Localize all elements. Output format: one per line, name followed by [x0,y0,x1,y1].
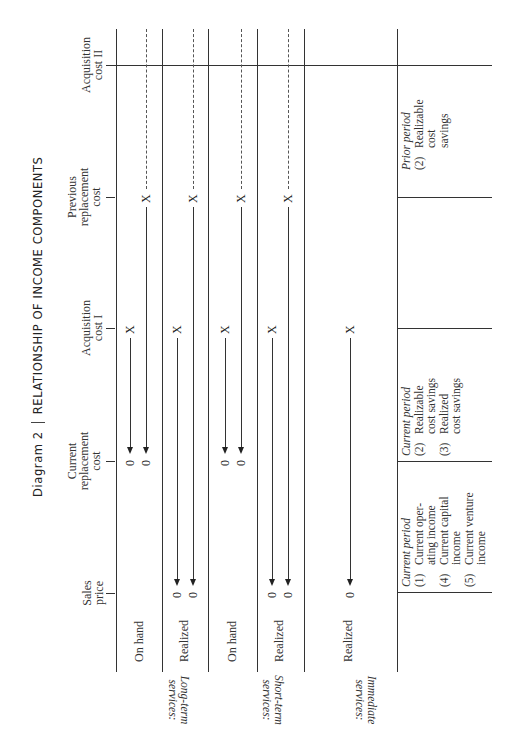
item-text: Current capital income [438,485,463,565]
row-separator-short-term [257,29,258,672]
dashed-line-short-realized [288,29,289,189]
x-mark-prev-long-realized: X [187,194,199,203]
tick-sales-price [106,593,115,594]
axis-label-line: price [93,570,105,616]
axis-label-line: cost II [92,35,104,95]
zero-mark-short-onhand-prev: 0 [235,460,247,466]
arrowhead-icon [269,579,275,586]
item-number: (4) [438,565,463,587]
panel-heading: Prior period [400,75,413,170]
row-label-immediate-realized: Realized [342,620,354,662]
group-label-line: Immediate [366,675,378,725]
row-label-short-realized: Realized [273,620,285,662]
zero-mark-immediate-realized: 0 [344,592,356,598]
arrowhead-icon [347,579,353,586]
item-number: (1) [413,565,438,587]
axis-label-line: cost I [92,298,104,358]
arrowhead-icon [222,447,228,454]
x-mark-prev-short-onhand: X [235,194,247,203]
item-text: Realizable cost savings [413,100,451,148]
x-mark-prev-short-realized: X [282,194,294,203]
dashed-line-long-realized [193,29,194,189]
panel-prior-period: Prior period (2) Realizable cost savings [400,75,450,170]
zero-mark-short-realized-acq1: 0 [266,592,278,598]
arrow-long-realized-acq1 [177,338,178,580]
x-mark-acq1-immediate: X [344,325,356,334]
arrowhead-icon [127,447,133,454]
diagram-number: Diagram 2 [31,431,45,497]
item-number: (5) [463,565,488,587]
diagram-heading: RELATIONSHIP OF INCOME COMPONENTS [31,157,45,415]
tick-current-replacement-cost [106,461,115,462]
arrowhead-icon [190,579,196,586]
item-text: Realizable cost savings [413,374,438,434]
axis-label-line: cost [90,162,102,232]
panel-divider-prev-replacement [397,197,492,198]
panel-item: (3) Realized cost savings [438,331,463,456]
panel-heading: Current period [400,462,413,587]
row-label-short-onhand: On hand [226,621,238,662]
arrowhead-icon [174,579,180,586]
group-separator-short-immediate [304,29,305,672]
title-divider [31,422,45,423]
panel-item: (2) Realizable cost savings [413,331,438,456]
x-mark-acq1-short-onhand: X [219,325,231,334]
arrow-long-onhand-acq1 [130,338,131,448]
row-label-long-onhand: On hand [133,621,145,662]
tick-acquisition-cost-1 [106,328,115,329]
arrowhead-icon [238,447,244,454]
acquisition-cost-2-line [106,65,492,66]
group-separator-long-short [208,29,209,672]
axis-label-previous-replacement-cost: Previous replacement cost [66,162,102,232]
group-label-line: services: [261,675,273,725]
panel-current-period-savings: Current period (2) Realizable cost savin… [400,331,463,456]
zero-mark-long-onhand-acq1: 0 [124,460,136,466]
x-mark-acq1-long-realized: X [171,325,183,334]
row-label-long-realized: Realized [178,620,190,662]
zero-mark-long-realized-acq1: 0 [171,592,183,598]
tick-previous-replacement-cost [106,197,115,198]
zero-mark-short-realized-prev: 0 [282,592,294,598]
arrow-short-realized-prev [288,207,289,580]
panel-current-period-income: Current period (1) Current oper-ating in… [400,462,488,587]
axis-label-acquisition-cost-2: Acquisition cost II [80,35,104,95]
axis-label-line: cost [90,426,102,496]
group-label-immediate: Immediate services: [354,675,378,725]
x-mark-prev-long-onhand: X [140,194,152,203]
arrow-long-onhand-prev [146,207,147,448]
arrow-long-realized-prev [193,207,194,580]
row-separator-long-term [162,29,163,672]
item-number: (2) [413,148,451,170]
arrow-short-onhand-acq1 [225,338,226,448]
x-mark-acq1-short-realized: X [266,325,278,334]
panel-item: (2) Realizable cost savings [413,75,451,170]
panel-item: (5) Current venture income [463,462,488,587]
group-separator-left [116,29,117,672]
arrowhead-icon [285,579,291,586]
item-number: (2) [413,434,438,456]
axis-label-current-replacement-cost: Current replacement cost [66,426,102,496]
item-text: Current venture income [463,485,488,565]
group-label-short-term: Short-term services: [261,675,285,725]
group-label-line: Long-term [179,675,191,725]
dashed-line-short-onhand [241,29,242,189]
arrow-short-onhand-prev [241,207,242,448]
panel-divider-acquisition-1 [397,328,492,329]
panel-item: (4) Current capital income [438,462,463,587]
item-number: (3) [438,434,463,456]
panel-item: (1) Current oper-ating income [413,462,438,587]
group-label-line: services: [167,675,179,725]
x-mark-acq1-long-onhand: X [124,325,136,334]
axis-label-sales-price: Sales price [81,570,105,616]
panel-separator [397,29,398,672]
zero-mark-short-onhand-acq1: 0 [219,460,231,466]
arrowhead-icon [143,447,149,454]
group-label-line: Short-term [273,675,285,725]
panel-heading: Current period [400,331,413,456]
group-label-line: services: [354,675,366,725]
item-text: Current oper-ating income [413,493,438,565]
dashed-line-long-onhand [146,29,147,189]
diagram-title: Diagram 2RELATIONSHIP OF INCOME COMPONEN… [31,157,45,497]
arrow-short-realized-acq1 [272,338,273,580]
zero-mark-long-realized-prev: 0 [187,592,199,598]
